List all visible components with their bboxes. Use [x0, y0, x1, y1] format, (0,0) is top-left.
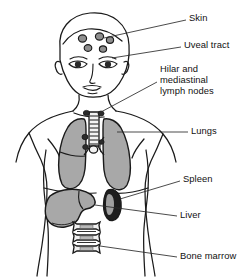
skin-lesion-3: [106, 37, 113, 44]
label-spleen: Spleen: [183, 173, 213, 184]
leader-line-uveal-tract: [112, 47, 181, 58]
vertebra-2: [73, 233, 100, 242]
label-lungs: Lungs: [191, 125, 217, 136]
label-skin: Skin: [189, 12, 207, 23]
label-bone-marrow-text: Bone marrow: [180, 250, 236, 261]
lung-right-of-image: [103, 119, 130, 190]
lymph-node-5: [83, 145, 89, 150]
uveal-tract-left-eye: [69, 61, 87, 68]
skin-lesions-group: [78, 33, 113, 52]
label-bone-marrow: Bone marrow: [180, 250, 236, 261]
bone-marrow-group: [73, 222, 100, 253]
leader-line-skin: [104, 20, 186, 38]
leader-line-spleen: [120, 181, 180, 199]
label-liver-text: Liver: [180, 209, 201, 220]
vertebra-3: [73, 244, 100, 253]
label-lymph-nodes-line-1: Hilar and: [160, 63, 214, 74]
spleen-group: [104, 189, 121, 220]
label-lungs-text: Lungs: [191, 125, 217, 136]
lymph-node-1: [83, 110, 89, 115]
liver-group: [45, 189, 95, 227]
label-skin-text: Skin: [189, 12, 207, 23]
leader-line-lymph-nodes: [101, 82, 157, 112]
skin-lesion-4: [84, 45, 92, 52]
label-hilar-mediastinal-lymph-nodes: Hilar and mediastinal lymph nodes: [160, 63, 214, 97]
vertebra-1: [73, 222, 100, 231]
label-uveal-tract-text: Uveal tract: [184, 39, 229, 50]
skin-lesion-1: [78, 35, 86, 42]
label-liver: Liver: [180, 209, 201, 220]
lymph-node-4: [89, 146, 97, 153]
label-lymph-nodes-line-3: lymph nodes: [160, 85, 214, 96]
leader-line-bone-marrow: [100, 246, 177, 257]
lung-left-of-image: [59, 119, 86, 189]
label-spleen-text: Spleen: [183, 173, 213, 184]
skin-lesion-5: [99, 46, 106, 52]
skin-lesion-2: [95, 33, 103, 40]
label-lymph-nodes-line-2: mediastinal: [160, 74, 214, 85]
diagram-canvas: Skin Uveal tract Hilar and mediastinal l…: [0, 0, 252, 279]
uveal-tract-right-eye: [99, 61, 117, 68]
lymph-node-6: [99, 140, 104, 145]
lymph-node-3: [82, 134, 88, 139]
label-uveal-tract: Uveal tract: [184, 39, 229, 50]
